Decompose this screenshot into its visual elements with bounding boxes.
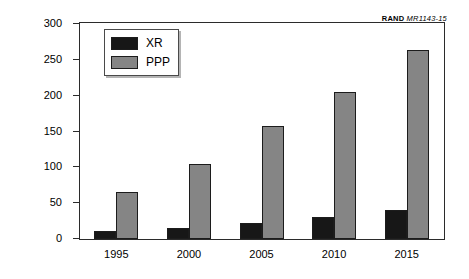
plot-inner: 05010015020025030019952000200520102015XR… xyxy=(80,23,444,239)
x-axis-tick-label: 2005 xyxy=(249,248,273,260)
x-axis-tick-label: 2010 xyxy=(322,248,346,260)
x-axis-tick-label: 1995 xyxy=(104,248,128,260)
legend-swatch-xr xyxy=(111,37,138,50)
y-axis-tick-label: 300 xyxy=(44,16,62,31)
y-axis-tick-label: 100 xyxy=(44,159,62,174)
y-axis-tick-label: 200 xyxy=(44,88,62,103)
bar-ppp-2005[interactable] xyxy=(262,126,284,239)
y-axis-tick-label: 250 xyxy=(44,52,62,67)
bar-xr-1995[interactable] xyxy=(94,231,116,239)
legend-swatch-ppp xyxy=(111,56,138,69)
bar-xr-2010[interactable] xyxy=(312,217,334,239)
plot-area: 05010015020025030019952000200520102015XR… xyxy=(79,22,445,240)
bar-group: 2005 xyxy=(240,23,284,239)
y-axis-tick-label: 150 xyxy=(44,124,62,139)
y-axis-tick-label: 0 xyxy=(56,231,62,246)
y-axis-tick: 300 xyxy=(73,23,80,24)
legend-item-xr[interactable]: XR xyxy=(111,35,170,51)
bar-ppp-2010[interactable] xyxy=(334,92,356,239)
bar-xr-2015[interactable] xyxy=(385,210,407,239)
bar-xr-2005[interactable] xyxy=(240,223,262,239)
x-axis-tick-label: 2000 xyxy=(177,248,201,260)
bar-ppp-2015[interactable] xyxy=(407,50,429,239)
bar-ppp-2000[interactable] xyxy=(189,164,211,239)
figure: RANDMR1143-15 Billions of 1998 U.S. doll… xyxy=(0,0,469,279)
y-axis-tick: 150 xyxy=(73,131,80,132)
y-axis-tick: 0 xyxy=(73,238,80,239)
chart-legend: XRPPP xyxy=(104,29,179,76)
y-axis-tick: 50 xyxy=(73,202,80,203)
y-axis-tick: 200 xyxy=(73,95,80,96)
legend-item-ppp[interactable]: PPP xyxy=(111,54,170,70)
y-axis-tick: 100 xyxy=(73,166,80,167)
bar-group: 2010 xyxy=(312,23,356,239)
y-axis-tick: 250 xyxy=(73,59,80,60)
bar-group: 2015 xyxy=(385,23,429,239)
x-axis-tick-label: 2015 xyxy=(394,248,418,260)
legend-label: PPP xyxy=(146,56,170,69)
bar-ppp-1995[interactable] xyxy=(116,192,138,239)
legend-label: XR xyxy=(146,37,163,50)
y-axis-tick-label: 50 xyxy=(50,195,62,210)
bar-xr-2000[interactable] xyxy=(167,228,189,239)
